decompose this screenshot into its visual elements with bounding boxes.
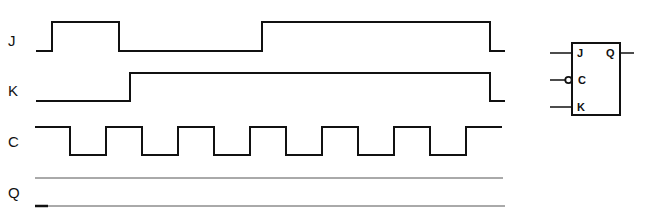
signal-label-c: C: [8, 133, 19, 150]
timing-diagram: J K C Q J C K Q: [0, 0, 654, 213]
waveform-k: [36, 73, 505, 101]
ff-label-k: K: [577, 101, 585, 113]
waveform-c: [35, 127, 502, 155]
clock-inversion-bubble-icon: [565, 77, 571, 83]
signal-label-j: J: [8, 32, 16, 49]
signal-label-k: K: [8, 82, 18, 99]
ff-label-j: J: [577, 47, 583, 59]
signal-label-q: Q: [8, 184, 20, 201]
ff-label-q: Q: [606, 47, 615, 59]
jk-flip-flop-symbol: J C K Q: [550, 43, 634, 115]
ff-label-c: C: [578, 74, 586, 86]
waveform-j: [36, 22, 505, 51]
